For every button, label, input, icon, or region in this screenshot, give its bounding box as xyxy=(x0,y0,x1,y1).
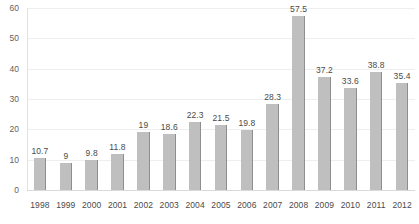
bar-slot: 28.3 xyxy=(266,8,279,190)
bar-value-label: 33.6 xyxy=(342,76,359,86)
x-axis-tick-label: 2009 xyxy=(315,200,334,210)
bar[interactable] xyxy=(137,132,150,190)
y-axis-tick-label: 10 xyxy=(10,155,19,165)
x-axis-tick-label: 2003 xyxy=(160,200,179,210)
bar-value-label: 37.2 xyxy=(316,65,333,75)
bar-value-label: 11.8 xyxy=(109,142,125,152)
bar[interactable] xyxy=(266,104,279,190)
x-axis-baseline xyxy=(27,190,415,191)
y-axis-tick-label: 60 xyxy=(10,3,19,13)
y-axis-tick-label: 20 xyxy=(10,124,19,134)
x-axis-tick-label: 1999 xyxy=(56,200,75,210)
bar-slot: 18.6 xyxy=(163,8,176,190)
x-axis-tick-label: 2007 xyxy=(263,200,282,210)
y-axis-tick-label: 50 xyxy=(10,33,19,43)
bar-value-label: 9.8 xyxy=(86,148,98,158)
y-axis-tick-label: 30 xyxy=(10,94,19,104)
bars-layer: 10.799.811.81918.622.321.519.828.357.537… xyxy=(27,8,415,190)
bar-slot: 9.8 xyxy=(85,8,98,190)
bar-slot: 35.4 xyxy=(396,8,409,190)
x-axis-tick-label: 2010 xyxy=(341,200,360,210)
bar-slot: 19 xyxy=(137,8,150,190)
bar-slot: 11.8 xyxy=(111,8,124,190)
bar[interactable] xyxy=(215,125,228,190)
bar-value-label: 19.8 xyxy=(238,118,255,128)
bar[interactable] xyxy=(111,154,124,190)
x-axis-tick-label: 2004 xyxy=(185,200,204,210)
bar[interactable] xyxy=(60,163,73,190)
bar[interactable] xyxy=(85,160,98,190)
bar-value-label: 38.8 xyxy=(368,60,385,70)
bar[interactable] xyxy=(189,122,202,190)
bar-value-label: 9 xyxy=(63,151,68,161)
bar-slot: 22.3 xyxy=(189,8,202,190)
bar-slot: 37.2 xyxy=(318,8,331,190)
y-axis: 0102030405060 xyxy=(0,8,22,190)
bar-value-label: 35.4 xyxy=(394,71,411,81)
bar-value-label: 57.5 xyxy=(290,4,307,14)
plot-area: 10.799.811.81918.622.321.519.828.357.537… xyxy=(27,8,415,190)
bar-value-label: 18.6 xyxy=(161,122,178,132)
bar-value-label: 19 xyxy=(139,120,149,130)
bar[interactable] xyxy=(241,130,254,190)
x-axis-tick-label: 2006 xyxy=(237,200,256,210)
x-axis-tick-label: 2001 xyxy=(108,200,127,210)
x-axis-tick-label: 2002 xyxy=(134,200,153,210)
bar-value-label: 22.3 xyxy=(187,110,204,120)
x-axis-tick-label: 2005 xyxy=(211,200,230,210)
bar[interactable] xyxy=(163,134,176,190)
bar-slot: 21.5 xyxy=(215,8,228,190)
bar[interactable] xyxy=(396,83,409,190)
y-axis-tick-label: 40 xyxy=(10,64,19,74)
x-axis-tick-label: 2008 xyxy=(289,200,308,210)
x-axis: 1998199920002001200220032004200520062007… xyxy=(27,192,415,222)
bar[interactable] xyxy=(370,72,383,190)
bar[interactable] xyxy=(318,77,331,190)
bar-slot: 57.5 xyxy=(292,8,305,190)
bar[interactable] xyxy=(292,16,305,190)
bar[interactable] xyxy=(34,158,47,190)
x-axis-tick-label: 2011 xyxy=(367,200,386,210)
bar-slot: 10.7 xyxy=(34,8,47,190)
bar-value-label: 10.7 xyxy=(31,146,48,156)
x-axis-tick-label: 2012 xyxy=(392,200,411,210)
x-axis-tick-label: 1998 xyxy=(30,200,49,210)
bar-slot: 33.6 xyxy=(344,8,357,190)
bar-chart: 0102030405060 10.799.811.81918.622.321.5… xyxy=(0,0,419,224)
bar-slot: 9 xyxy=(60,8,73,190)
bar-slot: 19.8 xyxy=(241,8,254,190)
y-axis-tick-label: 0 xyxy=(14,185,19,195)
x-axis-tick-label: 2000 xyxy=(82,200,101,210)
bar-value-label: 28.3 xyxy=(264,92,281,102)
bar-slot: 38.8 xyxy=(370,8,383,190)
bar-value-label: 21.5 xyxy=(213,113,230,123)
bar[interactable] xyxy=(344,88,357,190)
